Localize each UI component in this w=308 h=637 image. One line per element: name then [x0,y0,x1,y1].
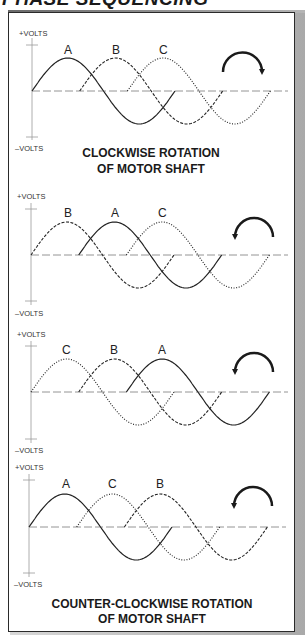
panel-3: +VOLTS –VOLTS C B A [15,330,288,455]
wave-label: C [62,343,71,357]
wave-label: B [112,43,120,57]
wave-label: B [110,343,118,357]
caption-line-2: OF MOTOR SHAFT [98,612,206,626]
caption-line-1: COUNTER-CLOCKWISE ROTATION [52,597,253,611]
positive-volts-label: +VOLTS [19,29,47,38]
negative-volts-label: –VOLTS [14,580,42,589]
wave-label: B [156,477,164,491]
positive-volts-label: +VOLTS [17,330,45,339]
counter-clockwise-arrow-icon [235,218,273,237]
counter-clockwise-arrow-icon [235,353,273,372]
wave-label: A [64,43,72,57]
wave-label: C [108,477,117,491]
wave-label: C [159,43,168,57]
wave-label: A [158,343,166,357]
clockwise-arrow-icon [223,53,262,73]
panel-4: +VOLTS –VOLTS A C B COUNTER-CLOCKWISE RO… [14,463,286,626]
wave-label: A [62,477,70,491]
panel-1: +VOLTS –VOLTS A B C CLOCKWISE ROTATION O… [15,29,288,176]
caption-line-2: OF MOTOR SHAFT [97,162,205,176]
negative-volts-label: –VOLTS [15,446,43,455]
caption-line-1: CLOCKWISE ROTATION [82,146,220,160]
wave-label: B [64,206,72,220]
positive-volts-label: +VOLTS [15,463,43,472]
negative-volts-label: –VOLTS [15,309,43,318]
negative-volts-label: –VOLTS [15,144,43,153]
counter-clockwise-arrow-icon [234,487,272,506]
wave-label: A [111,206,119,220]
panel-2: +VOLTS –VOLTS B A C [15,192,288,318]
wave-label: C [158,206,167,220]
phase-sequencing-diagram: +VOLTS –VOLTS A B C CLOCKWISE ROTATION O… [0,0,308,637]
positive-volts-label: +VOLTS [17,192,45,201]
